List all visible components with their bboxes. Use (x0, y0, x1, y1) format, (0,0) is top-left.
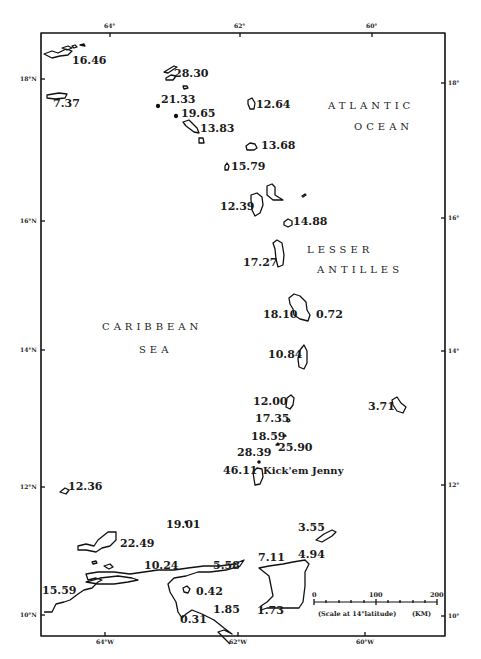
station-label: 21.33 (161, 94, 195, 105)
region-caribbean: CARIBBEAN (102, 322, 202, 332)
station-label: 25.90 (278, 442, 312, 453)
axis-top-64: 64° (104, 23, 115, 29)
island-montserrat (246, 143, 257, 150)
coast-paria-gulf (86, 576, 138, 584)
station-label: 12.39 (220, 201, 254, 212)
axis-left-10n: 10°N (20, 612, 37, 618)
scale-tick-100: 100 (369, 592, 383, 599)
island-trinidad (259, 560, 309, 610)
station-label: 7.11 (258, 552, 285, 563)
axis-right-16: 16° (448, 215, 459, 221)
coast-venezuela (44, 560, 244, 644)
island-antigua-barbuda (183, 120, 199, 133)
station-label: 0.72 (316, 309, 343, 320)
island-antigua (248, 98, 255, 109)
station-label: 4.94 (298, 549, 325, 560)
axis-left-16n: 16°N (20, 218, 37, 224)
island-st-barts (183, 86, 188, 89)
station-label: 19.65 (181, 108, 215, 119)
station-label: 1.73 (257, 605, 284, 616)
axis-top-60: 60° (366, 23, 377, 29)
axis-left-14n: 14°N (20, 347, 37, 353)
axis-right-14: 14° (448, 348, 459, 354)
station-label: 17.27 (243, 257, 277, 268)
station-label: 28.30 (174, 68, 208, 79)
volcano-label-kickem-jenny: Kick'em Jenny (263, 466, 343, 476)
station-label: 10.84 (268, 349, 302, 360)
island-coche (92, 561, 113, 569)
axis-bottom-64w: 64°W (96, 639, 114, 645)
station-label: 0.42 (196, 586, 223, 597)
island-redonda (199, 138, 204, 143)
axis-right-10: 10° (448, 613, 459, 619)
station-label: 3.55 (298, 522, 325, 533)
station-label: 15.79 (231, 161, 265, 172)
station-label: 28.39 (237, 447, 271, 458)
station-label: 12.36 (68, 481, 102, 492)
region-lesser: LESSER (307, 245, 373, 255)
island-marie-galante (284, 219, 292, 227)
region-antilles: ANTILLES (317, 265, 403, 275)
axis-top-62: 62° (234, 23, 245, 29)
station-label: 7.37 (53, 98, 80, 109)
axis-right-12: 12° (448, 482, 459, 488)
island-desirade (302, 194, 306, 197)
island-0.42 (183, 586, 190, 593)
axis-bottom-60w: 60°W (356, 639, 374, 645)
axis-left-18n: 18°N (20, 76, 37, 82)
scale-unit: (KM) (412, 611, 431, 618)
island-margarita (78, 532, 116, 552)
station-label: 17.35 (255, 413, 289, 424)
island-guadeloupe (251, 184, 283, 216)
region-atlantic: ATLANTIC (328, 101, 414, 111)
station-label: 15.59 (42, 585, 76, 596)
station-label: 46.11 (223, 465, 257, 476)
station-label: 0.31 (180, 614, 207, 625)
axis-right-18: 18° (448, 80, 459, 86)
scale-caption: (Scale at 14°latitude) (318, 611, 396, 618)
station-label: 13.83 (200, 123, 234, 134)
station-label: 1.85 (213, 604, 240, 615)
station-label: 5.58 (213, 560, 240, 571)
station-label: 12.00 (253, 396, 287, 407)
region-ocean: OCEAN (354, 122, 413, 132)
station-label: 10.24 (144, 560, 178, 571)
station-label: 12.64 (256, 99, 290, 110)
station-label: 14.88 (293, 216, 327, 227)
station-label: 16.46 (72, 55, 106, 66)
region-sea: SEA (139, 345, 172, 355)
axis-bottom-62w: 62°W (229, 639, 247, 645)
axis-left-12n: 12°N (20, 484, 37, 490)
station-label: 13.68 (261, 140, 295, 151)
station-label: 3.71 (368, 401, 395, 412)
station-label: 19.01 (166, 519, 200, 530)
island-redonda2 (225, 163, 229, 170)
station-label: 22.49 (120, 538, 154, 549)
scale-tick-200: 200 (430, 592, 444, 599)
scale-tick-0: 0 (312, 592, 317, 599)
station-label: 18.10 (263, 309, 297, 320)
